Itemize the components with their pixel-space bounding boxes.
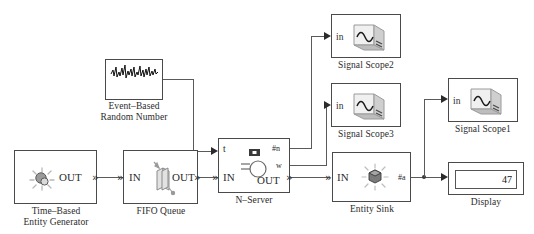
entity-chevron-queue-in: » bbox=[117, 172, 122, 183]
entity-chevron-generator-out: » bbox=[92, 172, 97, 183]
block-event-based-random-number[interactable] bbox=[105, 59, 163, 100]
arrowhead-server-t bbox=[211, 147, 218, 155]
arrowhead-scope3-in bbox=[324, 101, 331, 109]
port-server-in[interactable]: IN bbox=[223, 172, 235, 182]
block-entity-sink[interactable]: IN #a bbox=[332, 152, 411, 202]
entity-sink-icon bbox=[361, 163, 389, 195]
port-server-w[interactable]: w bbox=[276, 161, 282, 171]
label-time-based-entity-generator: Time–Based Entity Generator bbox=[0, 206, 112, 228]
random-noise-icon bbox=[110, 63, 160, 87]
block-time-based-entity-generator[interactable]: OUT bbox=[14, 150, 97, 204]
label-signal-scope3: Signal Scope3 bbox=[326, 129, 406, 140]
port-scope1-in[interactable]: in bbox=[453, 96, 460, 106]
entity-chevron-server-in: » bbox=[212, 172, 217, 183]
port-scope2-in[interactable]: in bbox=[336, 32, 343, 42]
block-diagram-canvas: OUT » » Time–Based Entity Generator IN bbox=[0, 0, 534, 234]
wire-random-down-v bbox=[193, 79, 194, 151]
scope-icon bbox=[352, 91, 388, 125]
label-n-server: N–Server bbox=[216, 195, 292, 206]
wire-sink-out-h bbox=[411, 177, 444, 178]
block-signal-scope1[interactable]: in bbox=[448, 78, 518, 122]
label-fifo-queue: FIFO Queue bbox=[118, 206, 204, 217]
block-n-server[interactable]: t IN #n w OUT bbox=[218, 138, 290, 193]
arrowhead-display-in bbox=[441, 173, 448, 181]
entity-chevron-server-out: » bbox=[286, 172, 291, 183]
arrowhead-scope2-in bbox=[324, 32, 331, 40]
wire-server-to-sink bbox=[290, 177, 330, 178]
port-server-out[interactable]: OUT bbox=[257, 175, 280, 185]
entity-generator-icon bbox=[29, 167, 55, 195]
wire-sink-up-v bbox=[424, 99, 425, 177]
display-value: 47 bbox=[455, 170, 517, 189]
port-server-n-count[interactable]: #n bbox=[272, 144, 280, 154]
label-display: Display bbox=[448, 197, 524, 208]
block-fifo-queue[interactable]: IN OUT bbox=[123, 150, 198, 204]
entity-chevron-sink-in: » bbox=[325, 172, 330, 183]
port-scope3-in[interactable]: in bbox=[336, 101, 343, 111]
arrowhead-scope1-in bbox=[441, 95, 448, 103]
label-event-based-random-number: Event–Based Random Number bbox=[94, 101, 174, 123]
port-queue-out[interactable]: OUT bbox=[172, 172, 195, 182]
port-sink-in[interactable]: IN bbox=[337, 172, 349, 182]
port-generator-out[interactable]: OUT bbox=[59, 172, 82, 182]
label-signal-scope2: Signal Scope2 bbox=[326, 60, 406, 71]
wire-n-up-v bbox=[311, 36, 312, 148]
label-signal-scope1: Signal Scope1 bbox=[443, 124, 523, 135]
wire-random-out-h bbox=[163, 79, 194, 80]
port-sink-arrival-count[interactable]: #a bbox=[398, 173, 406, 183]
label-entity-sink: Entity Sink bbox=[330, 204, 414, 215]
port-queue-in[interactable]: IN bbox=[129, 172, 141, 182]
entity-chevron-queue-out: » bbox=[194, 172, 199, 183]
block-signal-scope3[interactable]: in bbox=[331, 83, 401, 127]
port-server-t[interactable]: t bbox=[223, 144, 226, 154]
scope-icon bbox=[469, 86, 505, 120]
scope-icon bbox=[352, 22, 388, 56]
block-signal-scope2[interactable]: in bbox=[331, 14, 401, 58]
block-display[interactable]: 47 bbox=[448, 162, 524, 195]
